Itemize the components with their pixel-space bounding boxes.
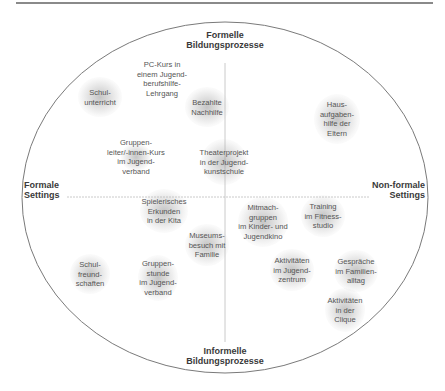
item-line: gruppen [238, 213, 287, 223]
item-line: im Familien- [335, 266, 376, 276]
item-line: Bezahlte [191, 98, 223, 108]
item-aktivitaeten-clique: Aktivitätenin derClique [327, 296, 362, 325]
item-line: zentrum [273, 275, 311, 285]
axis-label-right-line2: Settings [372, 190, 425, 200]
axis-label-bottom: Informelle Bildungsprozesse [186, 346, 264, 366]
item-line: alltag [335, 276, 376, 286]
item-line: Eltern [320, 129, 354, 139]
axis-label-left-line1: Formale [24, 180, 60, 190]
item-line: Training [304, 202, 341, 212]
axis-label-bottom-line2: Bildungsprozesse [186, 356, 264, 366]
item-line: im Jugend- [273, 265, 311, 275]
item-museumsbesuch: Museums-besuch mitFamilie [189, 231, 226, 260]
item-line: in der Jugend- [200, 157, 249, 167]
item-line: verband [139, 288, 177, 298]
item-aktivitaeten-jugendzentrum: Aktivitätenim Jugend-zentrum [273, 256, 311, 285]
axis-label-right: Non-formale Settings [372, 180, 425, 200]
item-line: Erkunden [141, 206, 186, 216]
item-line: Schul- [84, 88, 116, 98]
item-gruppenleiter-kurs: Gruppen-leiter/-innen-Kursim Jugend-verb… [107, 138, 165, 176]
item-spielerisches-erkunden: SpielerischesErkundenin der Kita [141, 197, 186, 226]
item-line: Gruppen- [139, 259, 177, 269]
item-hausaufgabenhilfe: Haus-aufgaben-hilfe derEltern [320, 100, 354, 138]
item-line: Jugendkino [238, 232, 287, 242]
item-line: unterricht [84, 97, 116, 107]
item-line: Haus- [320, 100, 354, 110]
axis-label-top: Formelle Bildungsprozesse [186, 30, 264, 50]
item-line: Clique [327, 315, 362, 325]
item-line: Gruppen- [107, 138, 165, 148]
item-line: Museums- [189, 231, 226, 241]
item-line: Mitmach- [238, 203, 287, 213]
axis-label-top-line2: Bildungsprozesse [186, 40, 264, 50]
axis-label-left: Formale Settings [24, 180, 60, 200]
item-theaterprojekt: Theaterprojektin der Jugend-kunstschule [200, 148, 249, 177]
item-bezahlte-nachhilfe: BezahlteNachhilfe [191, 98, 223, 117]
item-line: Theaterprojekt [200, 148, 249, 158]
item-mitmachgruppen: Mitmach-gruppenim Kinder- undJugendkino [238, 203, 287, 241]
item-line: Nachhilfe [191, 107, 223, 117]
axis-label-top-line1: Formelle [186, 30, 264, 40]
item-pc-kurs: PC-Kurs ineinem Jugend-berufshilfe-Lehrg… [137, 60, 187, 98]
item-gespraeche-familienalltag: Gesprächeim Familien-alltag [335, 257, 376, 286]
axis-label-bottom-line1: Informelle [186, 346, 264, 356]
item-line: PC-Kurs in [137, 60, 187, 70]
item-line: einem Jugend- [137, 70, 187, 80]
item-line: verband [107, 167, 165, 177]
item-line: Gespräche [335, 257, 376, 267]
item-line: Aktivitäten [273, 256, 311, 266]
item-line: im Jugend- [107, 157, 165, 167]
item-gruppenstunde: Gruppen-stundeim Jugend-verband [139, 259, 177, 297]
item-line: besuch mit [189, 240, 226, 250]
item-line: hilfe der [320, 119, 354, 129]
item-line: Schul- [76, 260, 105, 270]
item-line: im Fitness- [304, 211, 341, 221]
item-line: leiter/-innen-Kurs [107, 148, 165, 158]
item-line: im Kinder- und [238, 222, 287, 232]
item-line: Familie [189, 250, 226, 260]
axis-label-right-line1: Non-formale [372, 180, 425, 190]
item-line: stunde [139, 269, 177, 279]
item-line: kunstschule [200, 167, 249, 177]
item-line: in der Kita [141, 216, 186, 226]
item-line: berufshilfe- [137, 79, 187, 89]
item-training-fitnessstudio: Trainingim Fitness-studio [304, 202, 341, 231]
item-line: Aktivitäten [327, 296, 362, 306]
item-line: Lehrgang [137, 89, 187, 99]
item-schulunterricht: Schul-unterricht [84, 88, 116, 107]
item-line: im Jugend- [139, 278, 177, 288]
item-line: Spielerisches [141, 197, 186, 207]
item-line: studio [304, 221, 341, 231]
item-line: schaften [76, 279, 105, 289]
item-line: aufgaben- [320, 110, 354, 120]
item-line: in der [327, 305, 362, 315]
item-schulfreundschaften: Schul-freund-schaften [76, 260, 105, 289]
item-line: freund- [76, 269, 105, 279]
axis-label-left-line2: Settings [24, 190, 60, 200]
